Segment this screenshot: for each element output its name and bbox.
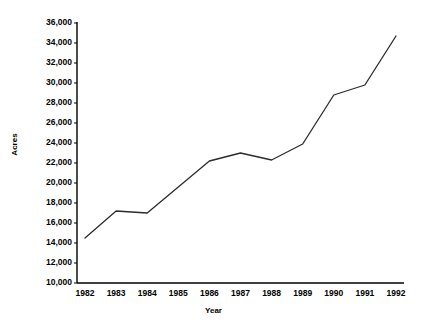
x-axis-title: Year — [0, 306, 427, 315]
plot-area — [0, 0, 427, 332]
line-chart: Acres 36,00034,00032,00030,00028,00026,0… — [0, 0, 427, 332]
data-line-acres — [85, 36, 396, 238]
